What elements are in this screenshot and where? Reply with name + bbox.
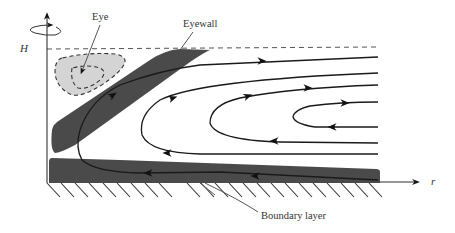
- boundary-layer-label: Boundary layer: [261, 210, 327, 221]
- hurricane-circulation-diagram: Eye Eyewall Boundary layer H r: [0, 0, 455, 233]
- tropopause-line: [47, 47, 378, 49]
- boundary-layer-leader: [205, 183, 258, 212]
- boundary-layer-leader-2: [200, 183, 215, 195]
- radius-axis-label: r: [431, 175, 436, 187]
- height-axis-label: H: [19, 42, 29, 54]
- eye-label: Eye: [92, 11, 109, 22]
- rotation-arrow-icon: [30, 25, 61, 35]
- eyewall-leader: [180, 32, 193, 50]
- eyewall-label: Eyewall: [183, 18, 217, 29]
- boundary-layer-slab: [49, 158, 380, 183]
